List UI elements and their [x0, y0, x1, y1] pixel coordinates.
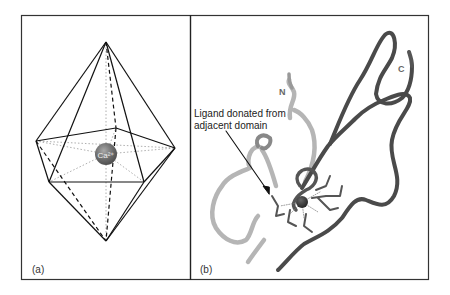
ligand-annotation: Ligand donated from adjacent domain	[194, 108, 286, 132]
annotation-line-2: adjacent domain	[194, 120, 286, 132]
figure: Ca²⁺	[0, 0, 450, 295]
protein-ribbon	[212, 33, 412, 270]
ribbon-helix-turn	[257, 136, 270, 149]
visible-edges	[36, 42, 175, 241]
hidden-edges	[36, 42, 116, 241]
ribbon-dark-loop	[330, 33, 412, 144]
panel-label-a: (a)	[32, 264, 44, 275]
c-terminus-label: C	[398, 64, 405, 74]
panel-label-b: (b)	[200, 264, 212, 275]
annotation-arrowhead	[263, 186, 269, 194]
figure-canvas: Ca²⁺	[0, 0, 450, 295]
metal-ion	[296, 196, 308, 208]
annotation-arrow-line	[226, 131, 267, 190]
ion-label: Ca²⁺	[98, 151, 115, 160]
c-terminal-stub	[409, 52, 412, 66]
polyhedron-diagram: Ca²⁺	[36, 42, 175, 241]
n-terminal-stub	[289, 74, 292, 88]
n-terminus-label: N	[279, 87, 286, 97]
annotation-line-1: Ligand donated from	[194, 108, 286, 120]
